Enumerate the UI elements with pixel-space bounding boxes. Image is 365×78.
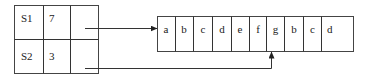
string-name-s1: S1 <box>21 12 33 24</box>
array-cell: a <box>164 23 169 35</box>
string-descriptor-table: S1 7 S2 3 <box>15 6 99 74</box>
string-length-s2: 3 <box>49 50 55 62</box>
array-cell: g <box>273 23 279 35</box>
string-length-s1: 7 <box>49 12 55 24</box>
array-cell: c <box>310 23 315 35</box>
array-cell: d <box>327 23 333 35</box>
array-cell: b <box>291 23 297 35</box>
string-name-s2: S2 <box>21 50 33 62</box>
array-cell: e <box>238 23 243 35</box>
pointer-arrow-s2 <box>85 52 272 69</box>
array-cell: b <box>181 23 187 35</box>
char-array: a b c d e f g b c d <box>158 17 354 52</box>
diagram-canvas: S1 7 S2 3 a b c d e f g b c d <box>0 0 365 78</box>
array-cell: f <box>256 23 260 35</box>
array-cell: c <box>201 23 206 35</box>
array-cell: d <box>219 23 225 35</box>
